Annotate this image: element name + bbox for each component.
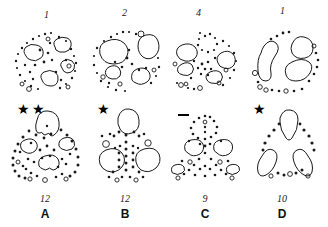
dot <box>204 126 206 128</box>
panel-bottom-b-letter: B <box>105 208 145 220</box>
dot <box>55 176 58 179</box>
dot <box>15 60 17 62</box>
panel-bottom-a-count: 12 <box>25 194 65 204</box>
dot <box>204 138 207 141</box>
dot <box>125 169 128 172</box>
dot <box>215 164 218 167</box>
dot <box>204 131 206 133</box>
dot <box>55 71 57 73</box>
ring <box>230 176 234 180</box>
dot <box>188 169 191 172</box>
dot <box>282 32 285 35</box>
ring <box>103 141 110 148</box>
panel-bottom-d-letter: D <box>262 208 302 220</box>
panel-bottom-d-drawing <box>244 104 326 182</box>
panel-bottom-c-letter: C <box>185 208 225 220</box>
dot <box>288 31 291 34</box>
panel-top-3 <box>164 20 246 98</box>
dot <box>21 47 23 49</box>
dot <box>138 171 141 174</box>
dot <box>267 134 270 137</box>
ring <box>101 75 105 79</box>
dot <box>75 148 78 151</box>
dot <box>204 145 207 148</box>
blob <box>258 149 278 176</box>
dot <box>207 74 209 76</box>
blob <box>285 60 312 82</box>
blob <box>171 164 184 174</box>
dot <box>116 33 118 35</box>
dot <box>198 158 201 161</box>
ring <box>118 82 122 86</box>
dot <box>220 169 223 172</box>
dot <box>132 159 135 162</box>
dot <box>30 142 33 145</box>
dot <box>96 47 98 49</box>
dot <box>122 31 124 33</box>
blob <box>177 44 198 61</box>
dot <box>18 175 21 178</box>
dot <box>276 35 279 38</box>
panel-top-2-drawing <box>84 20 166 98</box>
blob <box>214 140 233 156</box>
panel-bottom-c-drawing <box>164 104 246 182</box>
dot <box>38 35 40 37</box>
panel-top-4-number: 1 <box>280 6 285 16</box>
dot <box>118 159 121 162</box>
dot <box>271 89 274 92</box>
dot <box>34 64 37 67</box>
dot <box>121 66 124 69</box>
dot <box>12 164 15 167</box>
dot <box>24 64 26 66</box>
dot <box>126 57 129 60</box>
dot <box>118 166 121 169</box>
panel-bottom-b-drawing <box>84 104 166 182</box>
dot <box>225 173 228 176</box>
dot <box>181 160 184 163</box>
blob <box>24 44 43 60</box>
dot <box>138 135 141 138</box>
dot <box>199 143 202 146</box>
dot <box>190 127 193 130</box>
dot <box>143 133 146 136</box>
panel-top-3-number: 4 <box>196 8 201 18</box>
panel-top-4 <box>244 20 326 98</box>
dot <box>22 165 25 168</box>
dot <box>60 129 63 132</box>
dot <box>65 59 67 61</box>
dot <box>114 61 116 63</box>
dot <box>115 89 117 91</box>
dot <box>283 174 286 177</box>
dot <box>209 116 212 119</box>
dot <box>137 147 139 149</box>
panel-top-4-drawing <box>244 20 326 98</box>
ring <box>145 140 151 146</box>
dot <box>128 31 130 33</box>
ring <box>20 82 24 86</box>
dot <box>129 176 132 179</box>
dot <box>194 174 197 177</box>
ring <box>179 83 184 88</box>
dot <box>270 38 273 41</box>
dot <box>201 49 203 51</box>
blob <box>105 66 120 79</box>
dot <box>53 149 56 152</box>
dot <box>46 145 49 148</box>
dot <box>228 45 230 47</box>
dot <box>112 171 115 174</box>
dot <box>30 172 33 175</box>
dot <box>57 166 60 169</box>
dot <box>214 57 216 59</box>
ring <box>43 178 48 183</box>
dot <box>60 79 62 81</box>
dot <box>93 64 95 66</box>
dot <box>75 62 77 64</box>
dot <box>70 48 72 50</box>
ring <box>16 160 20 164</box>
dot <box>43 61 46 64</box>
dot <box>233 69 235 71</box>
ring <box>269 174 273 178</box>
dot <box>132 152 135 155</box>
panel-top-2 <box>84 20 166 98</box>
dot <box>227 160 230 163</box>
